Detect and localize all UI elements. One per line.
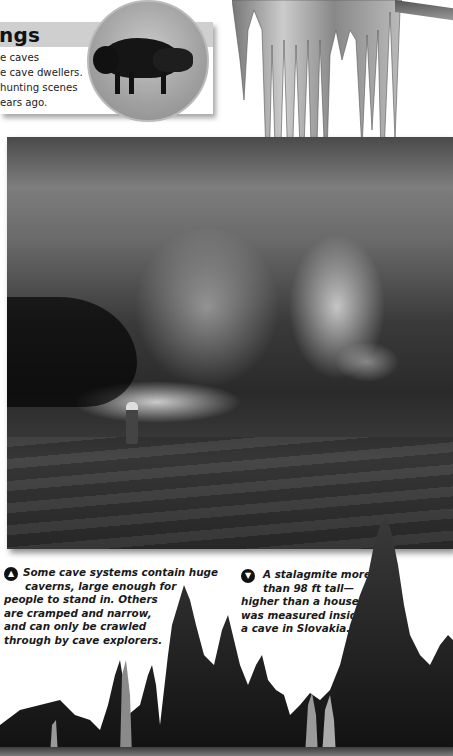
bison-leg bbox=[115, 72, 120, 94]
info-line: hunting scenes bbox=[0, 82, 78, 93]
info-box-title: ngs bbox=[0, 23, 40, 47]
cave-shadow bbox=[7, 297, 137, 407]
bison-head bbox=[93, 46, 119, 74]
info-line: e cave dwellers. bbox=[0, 67, 83, 78]
bison-leg bbox=[129, 72, 134, 94]
info-line: ears ago. bbox=[0, 97, 47, 108]
bison-leg bbox=[161, 72, 166, 94]
page-bottom-band bbox=[0, 747, 453, 756]
bison-painting-image bbox=[87, 0, 209, 122]
info-line: e caves bbox=[0, 52, 39, 63]
bison-calf bbox=[153, 48, 193, 72]
caver-figure bbox=[126, 402, 138, 444]
rock-overhang bbox=[395, 0, 453, 20]
stalagmites-image bbox=[0, 515, 453, 756]
cave-cavern-photo bbox=[7, 137, 453, 549]
